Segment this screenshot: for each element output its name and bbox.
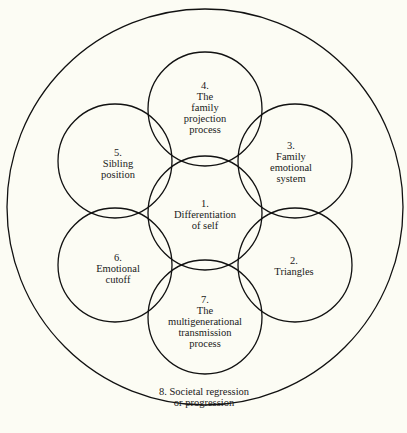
label-line: process [168, 338, 242, 349]
label-line: Emotional [96, 263, 140, 274]
label-line: Family [270, 151, 312, 162]
label-line: cutoff [96, 274, 140, 285]
label-line: 4. [184, 80, 227, 91]
label-circle-4: 4. The family projection process [184, 80, 227, 135]
label-line: Differentiation [174, 209, 236, 220]
label-line: Triangles [274, 266, 313, 277]
label-line: The [168, 305, 242, 316]
label-line: 6. [96, 252, 140, 263]
label-line: emotional [270, 162, 312, 173]
label-circle-5: 5. Sibling position [101, 147, 135, 180]
label-line: 8. Societal regression [159, 386, 249, 397]
label-line: 5. [101, 147, 135, 158]
label-line: 1. [174, 198, 236, 209]
label-line: 2. [274, 255, 313, 266]
label-line: system [270, 173, 312, 184]
label-line: of self [174, 220, 236, 231]
label-circle-1: 1. Differentiation of self [174, 198, 236, 231]
label-line: family [184, 102, 227, 113]
label-circle-2: 2. Triangles [274, 255, 313, 277]
label-line: Sibling [101, 158, 135, 169]
label-outer-societal-regression: 8. Societal regression or progression [159, 386, 249, 408]
label-circle-3: 3. Family emotional system [270, 140, 312, 184]
label-line: or progression [159, 397, 249, 408]
label-line: 3. [270, 140, 312, 151]
label-line: transmission [168, 327, 242, 338]
label-line: multigenerational [168, 316, 242, 327]
label-line: The [184, 91, 227, 102]
label-line: process [184, 124, 227, 135]
label-line: projection [184, 113, 227, 124]
label-circle-6: 6. Emotional cutoff [96, 252, 140, 285]
label-line: position [101, 169, 135, 180]
label-line: 7. [168, 294, 242, 305]
label-circle-7: 7. The multigenerational transmission pr… [168, 294, 242, 349]
